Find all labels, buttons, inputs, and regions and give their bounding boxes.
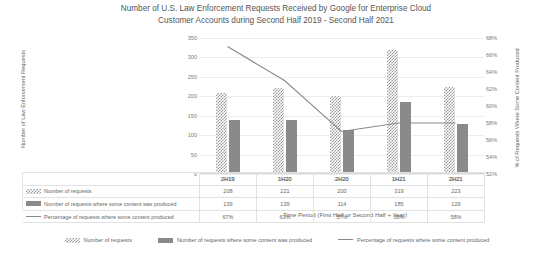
data-table-cell: 208: [200, 186, 257, 198]
y-axis-tick-label: 300: [175, 54, 197, 60]
secondary-y-axis-tick-label: 62%: [486, 86, 510, 92]
y-axis-tick-label: 150: [175, 113, 197, 119]
secondary-y-axis-tick-label: 64%: [486, 69, 510, 75]
data-table-column-header: 1H20: [257, 173, 314, 185]
data-table-cell: 114: [314, 198, 371, 210]
secondary-y-axis-tick-labels: 52%54%56%58%60%62%64%66%68%: [486, 38, 510, 174]
y-axis-tick-label: 350: [175, 35, 197, 41]
data-table-column-header: 2H20: [314, 173, 371, 185]
data-table-cell: 129: [428, 198, 485, 210]
legend-item-label: Percentage of requests where some conten…: [357, 237, 489, 243]
y-axis-title: Number of Law Enforcement Requests: [20, 24, 26, 174]
legend-swatch-solid-icon: [26, 201, 41, 206]
chart-title: Number of U.S. Law Enforcement Requests …: [60, 3, 492, 26]
data-table-row-label: Number of requests where some content wa…: [23, 198, 200, 210]
y-axis-tick-label: 100: [175, 132, 197, 138]
data-table-cell: 185: [371, 198, 428, 210]
secondary-y-axis-tick-label: 54%: [486, 154, 510, 160]
percentage-trend-line: [228, 47, 456, 132]
y-axis-tick-label: 50: [175, 152, 197, 158]
chart-title-line-2: Customer Accounts during Second Half 201…: [60, 15, 492, 27]
y-axis-tick-label: 250: [175, 74, 197, 80]
data-table-row-label: Percentage of requests where some conten…: [23, 211, 200, 223]
secondary-y-axis-tick-label: 52%: [486, 171, 510, 177]
legend-item-label: Number of requests: [84, 237, 132, 243]
chart-legend: Number of requestsNumber of requests whe…: [22, 234, 532, 246]
data-table-row-label-text: Percentage of requests where some conten…: [44, 214, 174, 220]
legend-swatch-solid-icon: [158, 238, 173, 243]
legend-item[interactable]: Percentage of requests where some conten…: [338, 237, 489, 243]
data-table-column-header: 1H21: [371, 173, 428, 185]
secondary-y-axis-tick-label: 66%: [486, 52, 510, 58]
data-table-cell: 139: [200, 198, 257, 210]
legend-item[interactable]: Number of requests where some content wa…: [158, 237, 312, 243]
chart-data-table: 2H191H202H201H212H21Number of requests20…: [22, 172, 485, 209]
data-table-cell: 223: [428, 186, 485, 198]
data-table-column-header: 2H19: [200, 173, 257, 185]
line-series-layer: [199, 38, 484, 174]
data-table-row-label-text: Number of requests: [44, 188, 91, 194]
data-table-cell: 57%: [314, 211, 371, 223]
data-table-header-row: 2H191H202H201H212H21: [23, 173, 485, 186]
data-table-cell: 319: [371, 186, 428, 198]
legend-item-label: Number of requests where some content wa…: [177, 237, 312, 243]
legend-swatch-line-icon: [26, 216, 41, 217]
y-axis-tick-labels: 050100150200250300350: [174, 38, 197, 174]
data-table-cell: 200: [314, 186, 371, 198]
data-table-row: Number of requests where some content wa…: [23, 198, 485, 211]
data-table-cell: 63%: [257, 211, 314, 223]
data-table-row: Number of requests208221200319223: [23, 186, 485, 199]
chart-title-line-1: Number of U.S. Law Enforcement Requests …: [60, 3, 492, 15]
data-table-cell: 67%: [200, 211, 257, 223]
y-axis-tick-label: 200: [175, 93, 197, 99]
secondary-y-axis-title: % of Requests Where Some Content Produce…: [514, 23, 520, 193]
data-table-row-label: Number of requests: [23, 186, 200, 198]
data-table-cell: 58%: [371, 211, 428, 223]
data-table-row: Percentage of requests where some conten…: [23, 211, 485, 224]
data-table-row-label-text: Number of requests where some content wa…: [44, 201, 176, 207]
data-table-corner-cell: [23, 173, 200, 185]
data-table-column-header: 2H21: [428, 173, 485, 185]
data-table-cell: 139: [257, 198, 314, 210]
data-table-cell: 58%: [428, 211, 485, 223]
secondary-y-axis-tick-label: 60%: [486, 103, 510, 109]
secondary-y-axis-tick-label: 56%: [486, 137, 510, 143]
secondary-y-axis-tick-label: 68%: [486, 35, 510, 41]
secondary-y-axis-tick-label: 58%: [486, 120, 510, 126]
legend-swatch-line-icon: [338, 239, 353, 240]
data-table-cell: 221: [257, 186, 314, 198]
legend-swatch-pattern-icon: [65, 238, 80, 243]
legend-item[interactable]: Number of requests: [65, 237, 132, 243]
chart-container: Number of U.S. Law Enforcement Requests …: [0, 0, 552, 257]
plot-area: [199, 38, 484, 174]
legend-swatch-pattern-icon: [26, 189, 41, 194]
